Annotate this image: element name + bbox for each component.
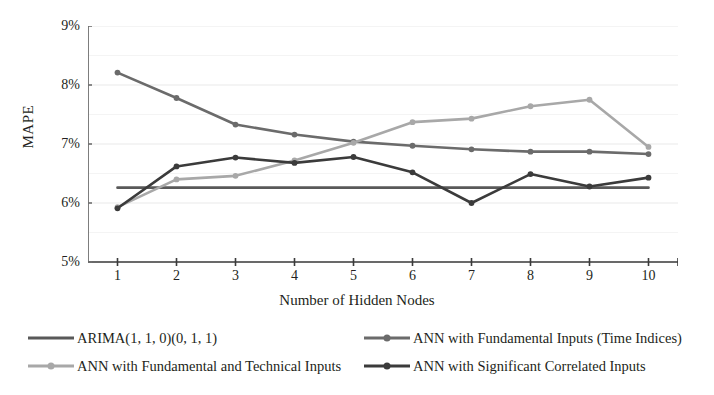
legend-item[interactable]: ARIMA(1, 1, 0)(0, 1, 1) bbox=[28, 326, 217, 350]
series-marker bbox=[587, 184, 593, 190]
series-marker bbox=[528, 149, 534, 155]
legend-item[interactable]: ANN with Fundamental Inputs (Time Indice… bbox=[364, 326, 682, 350]
x-tick-label: 6 bbox=[409, 268, 416, 284]
series-marker bbox=[587, 97, 593, 103]
series-marker bbox=[233, 122, 239, 128]
y-tick-label: 6% bbox=[34, 195, 80, 211]
legend-item[interactable]: ANN with Fundamental and Technical Input… bbox=[28, 354, 341, 378]
series-marker bbox=[469, 146, 475, 152]
series-marker bbox=[528, 171, 534, 177]
series-marker bbox=[646, 175, 652, 181]
series-line bbox=[118, 100, 649, 207]
series-marker bbox=[233, 173, 239, 179]
x-tick-label: 5 bbox=[350, 268, 357, 284]
x-tick-label: 7 bbox=[468, 268, 475, 284]
x-tick-label: 9 bbox=[586, 268, 593, 284]
y-tick-label: 8% bbox=[34, 77, 80, 93]
x-tick-label: 1 bbox=[114, 268, 121, 284]
x-tick-label: 3 bbox=[232, 268, 239, 284]
series-marker bbox=[233, 155, 239, 161]
series-marker bbox=[469, 200, 475, 206]
chart-legend: ARIMA(1, 1, 0)(0, 1, 1)ANN with Fundamen… bbox=[28, 326, 696, 382]
legend-swatch-icon bbox=[28, 360, 74, 372]
legend-swatch-icon bbox=[28, 332, 74, 344]
chart-figure: MAPE 9%8%7%6%5% 12345678910 Number of Hi… bbox=[0, 0, 714, 395]
x-axis-title: Number of Hidden Nodes bbox=[0, 292, 714, 309]
legend-swatch-icon bbox=[364, 360, 410, 372]
plot-area bbox=[88, 26, 678, 262]
series-marker bbox=[292, 160, 298, 166]
legend-swatch-icon bbox=[364, 332, 410, 344]
series-marker bbox=[174, 177, 180, 183]
series-marker bbox=[115, 70, 121, 76]
series-marker bbox=[469, 116, 475, 122]
x-tick-label: 4 bbox=[291, 268, 298, 284]
x-axis-tick-labels: 12345678910 bbox=[0, 268, 714, 292]
y-tick-label: 9% bbox=[34, 18, 80, 34]
legend-label: ANN with Fundamental Inputs (Time Indice… bbox=[413, 330, 682, 347]
series-marker bbox=[115, 205, 121, 211]
x-tick-label: 8 bbox=[527, 268, 534, 284]
series-marker bbox=[174, 164, 180, 170]
series-marker bbox=[528, 103, 534, 109]
legend-label: ANN with Significant Correlated Inputs bbox=[413, 358, 646, 375]
x-tick-label: 10 bbox=[642, 268, 656, 284]
series-marker bbox=[587, 149, 593, 155]
y-tick-label: 7% bbox=[34, 136, 80, 152]
series-line bbox=[118, 157, 649, 208]
series-marker bbox=[351, 154, 357, 160]
legend-item[interactable]: ANN with Significant Correlated Inputs bbox=[364, 354, 646, 378]
series-marker bbox=[351, 140, 357, 146]
series-marker bbox=[410, 169, 416, 175]
legend-label: ARIMA(1, 1, 0)(0, 1, 1) bbox=[77, 330, 217, 347]
series-marker bbox=[646, 151, 652, 157]
series-marker bbox=[174, 95, 180, 101]
series-marker bbox=[646, 144, 652, 150]
series-marker bbox=[410, 143, 416, 149]
x-tick-label: 2 bbox=[173, 268, 180, 284]
series-marker bbox=[292, 132, 298, 138]
series-marker bbox=[410, 119, 416, 125]
legend-label: ANN with Fundamental and Technical Input… bbox=[77, 358, 341, 375]
